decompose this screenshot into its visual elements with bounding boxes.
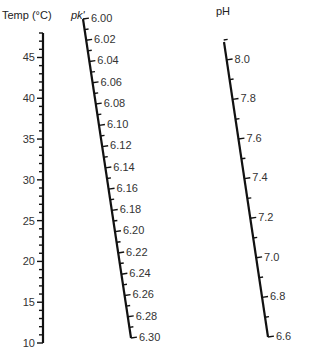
tick-label: 6.18 — [120, 203, 141, 215]
minor-tick — [126, 306, 130, 307]
minor-tick — [85, 29, 89, 30]
axis-title: Temp (°C) — [2, 9, 52, 21]
minor-tick — [247, 198, 251, 199]
major-tick — [102, 146, 108, 147]
major-tick — [268, 336, 274, 337]
tick-label: 20 — [23, 255, 35, 267]
major-tick — [128, 316, 134, 317]
major-tick — [93, 82, 99, 83]
axis-line — [224, 42, 268, 337]
tick-label: 35 — [23, 133, 35, 145]
minor-tick — [259, 277, 263, 278]
major-tick — [125, 295, 131, 296]
tick-label: 40 — [23, 92, 35, 104]
tick-label: 7.8 — [240, 92, 255, 104]
tick-label: 25 — [23, 215, 35, 227]
tick-label: 6.28 — [136, 310, 157, 322]
major-tick — [233, 99, 239, 100]
tick-label: 6.04 — [97, 54, 118, 66]
tick-label: 6.26 — [133, 288, 154, 300]
minor-tick — [94, 93, 98, 94]
major-tick — [83, 18, 89, 19]
tick-label: 45 — [23, 51, 35, 63]
axis-ph: pH8.07.87.67.47.27.06.86.6 — [216, 5, 291, 342]
major-tick — [131, 337, 137, 338]
major-tick — [96, 103, 102, 104]
major-tick — [112, 210, 118, 211]
minor-tick — [236, 119, 240, 120]
tick-label: 6.20 — [123, 224, 144, 236]
tick-label: 6.08 — [104, 97, 125, 109]
minor-tick — [265, 317, 269, 318]
tick-label: 7.0 — [264, 251, 279, 263]
minor-tick — [110, 199, 114, 200]
minor-tick — [224, 39, 228, 40]
tick-label: 6.02 — [94, 33, 115, 45]
minor-tick — [117, 242, 121, 243]
tick-label: 15 — [23, 296, 35, 308]
tick-label: 7.6 — [246, 132, 261, 144]
major-tick — [89, 61, 95, 62]
tick-label: 7.2 — [258, 211, 273, 223]
minor-tick — [107, 178, 111, 179]
minor-tick — [104, 157, 108, 158]
major-tick — [86, 39, 92, 40]
minor-tick — [101, 135, 105, 136]
tick-label: 6.24 — [129, 267, 150, 279]
axis-pk: pk'6.006.026.046.066.086.106.126.146.166… — [70, 9, 160, 343]
tick-label: 30 — [23, 174, 35, 186]
major-tick — [244, 178, 250, 179]
major-tick — [99, 124, 105, 125]
tick-label: 7.4 — [252, 171, 267, 183]
minor-tick — [97, 114, 101, 115]
minor-tick — [241, 158, 245, 159]
tick-label: 6.22 — [126, 246, 147, 258]
tick-label: 6.06 — [101, 76, 122, 88]
minor-tick — [113, 220, 117, 221]
minor-tick — [129, 327, 133, 328]
tick-label: 6.16 — [117, 182, 138, 194]
minor-tick — [91, 72, 95, 73]
tick-label: 6.6 — [276, 330, 291, 342]
major-tick — [118, 252, 124, 253]
minor-tick — [230, 79, 234, 80]
tick-label: 6.8 — [270, 290, 285, 302]
tick-label: 6.30 — [139, 331, 160, 343]
tick-label: 6.10 — [107, 118, 128, 130]
tick-label: 6.12 — [110, 139, 131, 151]
major-tick — [109, 188, 115, 189]
minor-tick — [120, 263, 124, 264]
tick-label: 8.0 — [235, 53, 250, 65]
axis-temp: Temp (°C)4540353025201510 — [2, 9, 52, 349]
minor-tick — [253, 237, 257, 238]
major-tick — [115, 231, 121, 232]
major-tick — [227, 59, 233, 60]
major-tick — [256, 257, 262, 258]
major-tick — [105, 167, 111, 168]
tick-label: 6.14 — [113, 161, 134, 173]
major-tick — [121, 273, 127, 274]
major-tick — [250, 217, 256, 218]
minor-tick — [88, 50, 92, 51]
minor-tick — [123, 284, 127, 285]
major-tick — [238, 138, 244, 139]
major-tick — [262, 297, 268, 298]
nomogram: Temp (°C)4540353025201510pk'6.006.026.04… — [0, 0, 319, 354]
tick-label: 10 — [23, 337, 35, 349]
tick-label: 6.00 — [91, 12, 112, 24]
axis-title: pH — [216, 5, 230, 17]
